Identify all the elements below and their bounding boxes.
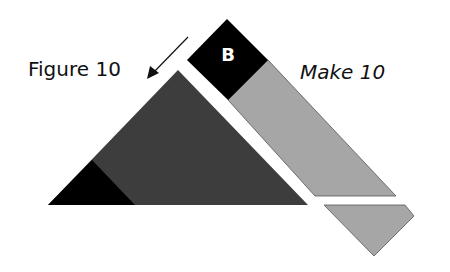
quilt-diagram: Figure 10 Make 10 B [0,0,450,272]
light-gray-trapezoid [324,205,414,256]
arrow-down-left-icon [147,37,188,79]
figure-title: Figure 10 [28,57,121,81]
diagram-canvas [0,0,450,272]
block-label: B [218,44,238,65]
make-instruction: Make 10 [300,60,385,84]
